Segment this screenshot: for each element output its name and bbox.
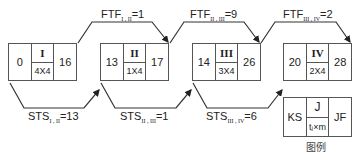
legend-caption: 图例 [306, 139, 326, 154]
ftf-link-3-4 [261, 22, 350, 43]
ks-value: 20 [284, 44, 306, 80]
activity-id: II [124, 44, 146, 63]
ftf-label-3-4: FTFIII , IV=2 [283, 8, 333, 22]
activity-duration: 1X4 [124, 63, 146, 81]
ks-value: 0 [9, 44, 31, 80]
activity-id: III [216, 44, 238, 63]
jf-value: 16 [54, 44, 76, 80]
sts-label-2-3: STSII , III=1 [120, 110, 168, 124]
ftf-label-1-2: FTFI , II=1 [101, 8, 144, 22]
jf-value: 17 [146, 44, 168, 80]
legend-j: J [307, 98, 329, 118]
ks-value: 13 [101, 44, 123, 80]
sts-label-1-2: STSI , II=13 [28, 110, 79, 124]
legend-ks: KS [284, 98, 306, 136]
sts-link-2-3 [101, 83, 191, 108]
jf-value: 26 [238, 44, 260, 80]
legend-box: KS J tⱼ×m JF [283, 97, 352, 137]
sts-label-3-4: STSIII , IV=6 [206, 110, 257, 124]
sts-link-3-4 [193, 83, 282, 108]
sts-link-1-2 [10, 83, 99, 108]
activity-id: IV [307, 44, 329, 63]
legend-jf: JF [329, 98, 351, 136]
activity-box-2: 13 II 1X4 17 [100, 43, 169, 81]
activity-box-1: 0 I 4X4 16 [8, 43, 77, 81]
activity-duration: 3X4 [216, 63, 238, 81]
activity-box-3: 14 III 3X4 26 [192, 43, 261, 81]
activity-id: I [32, 44, 54, 63]
activity-duration: 4X4 [32, 63, 54, 81]
ks-value: 14 [193, 44, 215, 80]
ftf-label-2-3: FTFII , III=9 [190, 8, 237, 22]
jf-value: 28 [329, 44, 351, 80]
activity-duration: 2X4 [307, 63, 329, 81]
activity-box-4: 20 IV 2X4 28 [283, 43, 352, 81]
legend-t: tⱼ×m [307, 118, 329, 137]
ftf-link-1-2 [78, 22, 168, 43]
ftf-link-2-3 [170, 22, 259, 43]
